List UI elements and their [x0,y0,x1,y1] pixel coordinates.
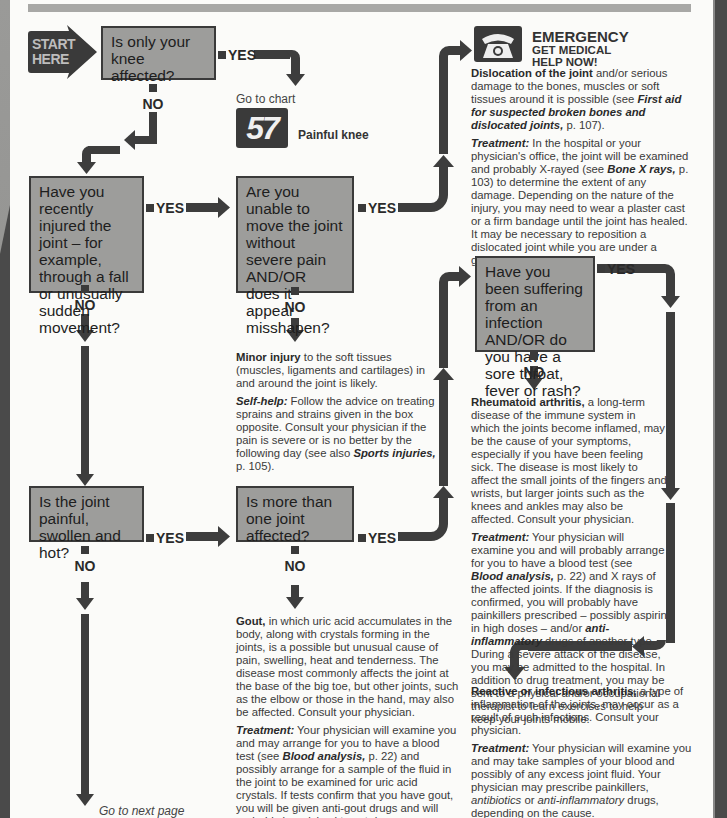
question-painful-swollen[interactable]: Is the joint painful, swollen and hot? [29,486,144,542]
minor-injury-text: Minor injury to the soft tissues (muscle… [236,351,436,478]
yes-label-q6: YES [597,261,635,277]
yes-label-q2: YES [146,200,184,216]
question-recent-injury[interactable]: Have you recently injured the joint – fo… [29,176,144,293]
emergency-subtitle: GET MEDICAL HELP NOW! [532,44,611,68]
emergency-dislocation-text: Dislocation of the joint and/or serious … [471,67,689,272]
no-label-q3: NO [280,287,310,315]
start-marker: START HERE [28,25,98,80]
yes-label-q5: YES [358,530,396,546]
chart-name-link[interactable]: Painful knee [298,128,369,142]
start-label: START HERE [32,37,75,67]
question-infection[interactable]: Have you been suffering from an infectio… [475,256,595,352]
question-unable-to-move[interactable]: Are you unable to move the joint without… [236,176,354,293]
chart-number-badge[interactable]: 57 [236,108,288,148]
question-more-than-one-joint[interactable]: Is more than one joint affected? [236,486,354,542]
go-to-next-page-link[interactable]: Go to next page [99,804,184,818]
gout-text: Gout, in which uric acid accumulates in … [236,615,460,818]
emergency-title: EMERGENCY [532,28,629,45]
no-label-q5: NO [280,546,310,574]
reactive-arthritis-text: Reactive or infectious arthritis, a type… [471,685,696,818]
no-label-q1: NO [138,84,168,112]
arrow-q1-yes [254,50,290,59]
yes-label-q1: YES [218,47,256,63]
no-label-q6: NO [519,352,549,380]
yes-label-q3: YES [358,200,396,216]
no-label-q4: NO [70,546,100,574]
goto-chart-label: Go to chart [236,92,295,106]
no-label-q2: NO [70,285,100,313]
rheumatoid-arthritis-text: Rheumatoid arthritis, a long-term diseas… [471,396,667,731]
yes-label-q4: YES [146,530,184,546]
telephone-icon [474,26,522,62]
question-knee-only[interactable]: Is only your knee affected? [101,26,216,80]
